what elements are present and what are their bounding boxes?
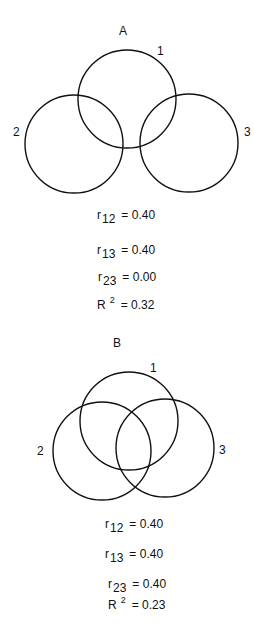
panel-a-circle-1-label: 1 xyxy=(157,45,164,57)
panel-b-circle-1 xyxy=(80,372,178,470)
panel-a-r13: r13= 0.40 xyxy=(97,243,155,257)
venn-diagrams xyxy=(0,0,254,629)
panel-b-circle-2 xyxy=(53,402,151,500)
panel-a-circle-2-label: 2 xyxy=(13,126,20,138)
panel-a-r23: r23= 0.00 xyxy=(98,270,156,284)
panel-b-circle-3-label: 3 xyxy=(219,444,226,456)
panel-b-r12: r12= 0.40 xyxy=(105,517,163,531)
panel-a-circle-3-label: 3 xyxy=(244,126,251,138)
panel-b-r13: r13= 0.40 xyxy=(105,547,163,561)
panel-a-r-squared: R2= 0.32 xyxy=(97,298,154,312)
panel-b-circle-3 xyxy=(116,399,214,497)
panel-b-circle-2-label: 2 xyxy=(37,445,44,457)
panel-b-title: B xyxy=(113,337,121,349)
panel-b-circle-1-label: 1 xyxy=(150,362,157,374)
panel-a-r12: r12= 0.40 xyxy=(97,208,155,222)
panel-a-circle-3 xyxy=(140,94,238,192)
panel-a-title: A xyxy=(119,25,127,37)
panel-b-r-squared: R2= 0.23 xyxy=(108,598,165,612)
panel-b-r23: r23= 0.40 xyxy=(108,577,166,591)
